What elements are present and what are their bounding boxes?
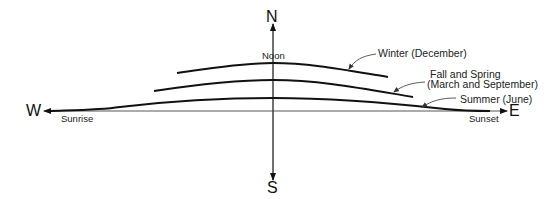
east-label: E [509,103,520,119]
noon-label: Noon [262,51,285,61]
summer-label: Summer (June) [460,94,532,105]
winter-sun-path [177,63,388,77]
north-label: N [266,9,278,25]
sunset-label: Sunset [469,114,499,124]
west-label: W [26,103,41,119]
sunrise-label: Sunrise [61,114,93,124]
winter-label: Winter (December) [378,48,467,59]
summer-leader-line [422,98,456,107]
south-label: S [267,180,278,196]
equinox-sun-path [154,80,413,97]
sun-path-diagram: N S W E Noon Sunrise Sunset Winter (Dece… [0,0,549,199]
equinox-label-line2: (March and September) [427,79,538,90]
summer-sun-path [48,98,490,111]
equinox-leader-line [394,82,425,92]
winter-leader-line [349,54,376,69]
